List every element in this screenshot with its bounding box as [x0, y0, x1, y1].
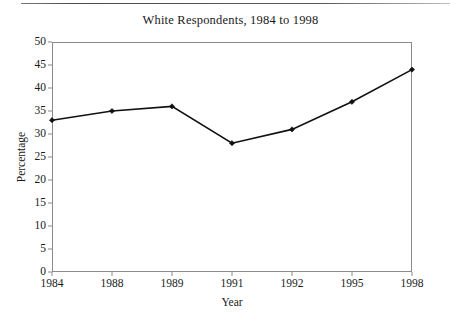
- data-point-marker: [289, 127, 294, 132]
- x-tick-label: 1992: [281, 278, 304, 290]
- x-tick-mark: [232, 272, 233, 276]
- y-tick-label: 5: [40, 243, 46, 255]
- y-tick-label: 25: [35, 151, 47, 163]
- x-tick-mark: [112, 272, 113, 276]
- x-tick-mark: [352, 272, 353, 276]
- y-tick-label: 30: [35, 128, 47, 140]
- y-axis-title-label: Percentage: [15, 132, 27, 182]
- y-tick-label: 40: [35, 82, 47, 94]
- y-tick-label: 20: [35, 174, 47, 186]
- series-layer: [52, 42, 412, 272]
- x-tick-label: 1984: [41, 278, 64, 290]
- y-tick-label: 10: [35, 220, 47, 232]
- plot-area: 05101520253035404550 1984198819891991199…: [52, 42, 412, 272]
- x-tick-label: 1991: [221, 278, 244, 290]
- y-tick-label: 45: [35, 59, 47, 71]
- x-tick-label: 1995: [341, 278, 364, 290]
- y-axis-title: Percentage: [13, 42, 29, 272]
- y-tick-label: 15: [35, 197, 47, 209]
- data-point-marker: [109, 108, 114, 113]
- x-tick-label: 1989: [161, 278, 184, 290]
- x-tick-mark: [292, 272, 293, 276]
- x-axis-title: Year: [52, 296, 412, 308]
- x-tick-label: 1988: [101, 278, 124, 290]
- y-tick-label: 50: [35, 36, 47, 48]
- series-line: [52, 70, 412, 144]
- x-tick-mark: [52, 272, 53, 276]
- chart-title: White Respondents, 1984 to 1998: [0, 13, 461, 28]
- x-tick-mark: [172, 272, 173, 276]
- chart-figure: White Respondents, 1984 to 1998 Percenta…: [0, 0, 461, 322]
- x-tick-mark: [412, 272, 413, 276]
- data-point-marker: [49, 118, 54, 123]
- series-markers: [49, 67, 414, 146]
- y-tick-label: 35: [35, 105, 47, 117]
- x-tick-label: 1998: [401, 278, 424, 290]
